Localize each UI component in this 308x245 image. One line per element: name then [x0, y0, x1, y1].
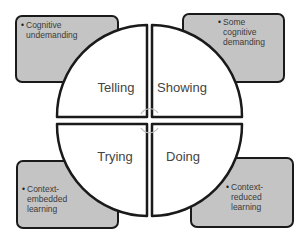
box-text-top-left: • Cognitive undemanding: [26, 20, 78, 40]
quadrant-label-doing: Doing: [166, 149, 200, 164]
box-text-bottom-right: • Context- reduced learning: [231, 182, 263, 212]
bullet-icon: •: [218, 17, 221, 27]
box-text-bottom-left: • Context- embedded learning: [27, 184, 67, 214]
bullet-icon: •: [21, 20, 24, 30]
quadrant-label-showing: Showing: [157, 80, 207, 95]
quadrant-bottom-left: [57, 124, 147, 216]
box-text-top-right: • Some cognitive demanding: [223, 17, 265, 47]
quadrant-label-telling: Telling: [98, 80, 135, 95]
bullet-icon: •: [226, 182, 229, 192]
quadrant-label-trying: Trying: [97, 149, 133, 164]
bullet-icon: •: [22, 184, 25, 194]
quadrant-bottom-right: [152, 124, 242, 216]
